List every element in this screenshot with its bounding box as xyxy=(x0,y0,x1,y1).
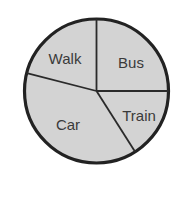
slice-label-walk: Walk xyxy=(49,50,82,67)
slice-label-train: Train xyxy=(122,107,156,124)
pie-chart: Walk Bus Train Car xyxy=(0,0,182,197)
slice-label-bus: Bus xyxy=(118,54,144,71)
slice-label-car: Car xyxy=(56,116,80,133)
